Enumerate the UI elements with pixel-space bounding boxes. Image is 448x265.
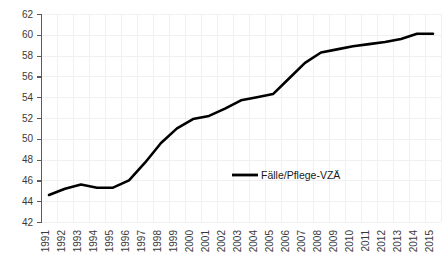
x-axis-tick-label: 1998 (152, 230, 163, 253)
y-axis-tick-label: 58 (22, 50, 34, 61)
x-axis-tick-label: 2000 (184, 230, 195, 253)
x-axis-tick-label: 1991 (40, 230, 51, 253)
x-axis-tick-label: 2010 (344, 230, 355, 253)
y-axis-tick-label: 44 (22, 196, 34, 207)
x-axis-tick-label: 2014 (408, 230, 419, 253)
x-axis-tick-label: 2003 (232, 230, 243, 253)
x-axis-tick-label: 1999 (168, 230, 179, 253)
y-axis-tick-label: 42 (22, 217, 34, 228)
x-axis-tick-label: 1996 (120, 230, 131, 253)
x-axis-tick-label: 2011 (360, 230, 371, 252)
x-axis-tick-label: 2008 (312, 230, 323, 253)
y-axis-tick-label: 52 (22, 113, 34, 124)
x-axis-tick-label: 2012 (376, 230, 387, 253)
x-axis-tick-label: 2015 (424, 230, 435, 253)
y-axis-tick-label: 60 (22, 29, 34, 40)
y-axis-tick-label: 50 (22, 133, 34, 144)
y-axis-tick-label: 62 (22, 9, 34, 20)
x-axis-tick-label: 1993 (72, 230, 83, 253)
y-axis-tick-label: 56 (22, 71, 34, 82)
y-axis-tick-label: 46 (22, 175, 34, 186)
x-axis-tick-label: 2006 (280, 230, 291, 253)
x-axis-tick-label: 2001 (200, 230, 211, 253)
y-axis-tick-label: 54 (22, 92, 34, 103)
x-axis-tick-label: 2004 (248, 230, 259, 253)
legend-label: Fälle/Pflege-VZÄ (261, 169, 340, 181)
x-axis-tick-label: 2013 (392, 230, 403, 253)
x-axis-tick-label: 2002 (216, 230, 227, 253)
x-axis-tick-label: 1997 (136, 230, 147, 253)
x-axis-tick-label: 2005 (264, 230, 275, 253)
x-axis-tick-label: 2007 (296, 230, 307, 253)
y-axis-tick-label: 48 (22, 154, 34, 165)
x-axis-tick-label: 2009 (328, 230, 339, 253)
line-chart: 4244464850525456586062 19911992199319941… (0, 0, 448, 265)
plot-background (0, 0, 448, 265)
x-axis-tick-label: 1992 (56, 230, 67, 253)
x-axis-tick-label: 1995 (104, 230, 115, 253)
x-axis-tick-label: 1994 (88, 230, 99, 253)
chart-container: 4244464850525456586062 19911992199319941… (0, 0, 448, 265)
